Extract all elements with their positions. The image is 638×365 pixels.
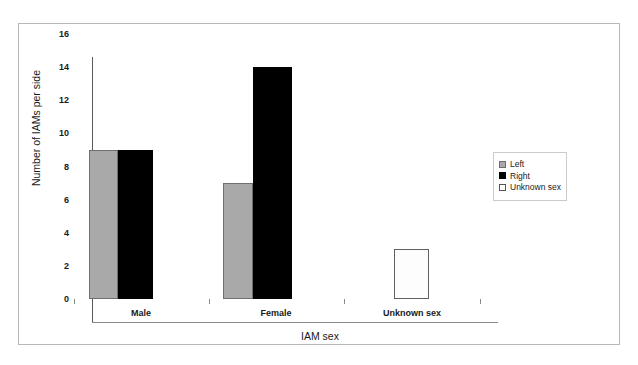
legend-item-right[interactable]: Right	[499, 172, 561, 181]
x-axis-category-male: Male	[131, 308, 151, 318]
chart-legend: LeftRightUnknown sex	[493, 152, 567, 201]
legend-item-label: Left	[510, 160, 524, 169]
y-axis-tick-labels: 0246810121416	[45, 24, 69, 319]
y-axis-tick-16: 16	[47, 30, 69, 39]
plot-area	[74, 34, 480, 299]
y-axis-tick-12: 12	[47, 96, 69, 105]
y-axis-tick-8: 8	[47, 162, 69, 171]
bar-female-right	[253, 67, 292, 299]
y-axis-tick-2: 2	[47, 261, 69, 270]
x-axis-category-unknown-sex: Unknown sex	[383, 308, 441, 318]
y-axis-tick-10: 10	[47, 129, 69, 138]
y-axis-title: Number of IAMs per side	[30, 28, 42, 228]
white-square-icon	[499, 184, 506, 191]
bar-female-left	[223, 183, 253, 299]
bar-male-right	[118, 150, 153, 299]
legend-item-label: Unknown sex	[510, 183, 561, 192]
x-axis-tick-0	[74, 299, 75, 304]
legend-item-left[interactable]: Left	[499, 160, 561, 169]
bar-male-left	[89, 150, 118, 299]
black-square-icon	[499, 172, 506, 179]
legend-item-label: Right	[510, 172, 530, 181]
y-axis-tick-14: 14	[47, 63, 69, 72]
bar-unknown-sex-unknown-sex	[394, 249, 429, 299]
x-axis-line	[92, 322, 498, 323]
x-axis-tick-1	[209, 299, 210, 304]
x-axis-tick-3	[480, 299, 481, 304]
y-axis-tick-0: 0	[47, 295, 69, 304]
gray-square-icon	[499, 161, 506, 168]
chart-frame: Number of IAMs per side 0246810121416 Ma…	[18, 23, 620, 345]
x-axis-title: IAM sex	[1, 330, 638, 342]
x-axis-tick-2	[344, 299, 345, 304]
legend-item-unknown-sex[interactable]: Unknown sex	[499, 183, 561, 192]
y-axis-tick-6: 6	[47, 195, 69, 204]
x-axis-category-female: Female	[260, 308, 291, 318]
y-axis-tick-4: 4	[47, 228, 69, 237]
